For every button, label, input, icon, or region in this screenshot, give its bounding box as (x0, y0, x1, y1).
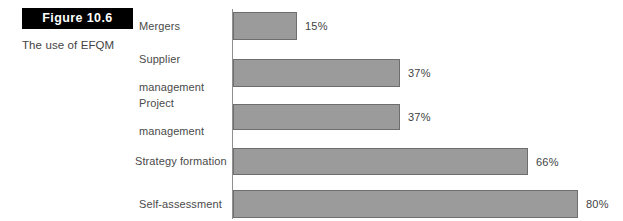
bar-self-assessment[interactable] (233, 190, 578, 218)
bar-category-label-line1: Strategy formation (135, 154, 227, 168)
bar-category-label-line1: Project (139, 96, 204, 110)
bar-category-label: Supplier management (139, 59, 231, 87)
bar-value-label: 80% (586, 198, 609, 210)
bar-value-label: 37% (408, 67, 431, 79)
bar-category-label: Strategy formation (135, 148, 235, 175)
bar-category-label-line1: Supplier (139, 52, 204, 66)
bar-category-label: Self-assessment (139, 190, 239, 218)
bar-category-label-line2: management (139, 80, 204, 94)
bar-category-label-line2: management (139, 124, 204, 138)
bar-mergers[interactable] (233, 12, 297, 40)
bar-value-label: 15% (305, 20, 328, 32)
bar-category-label: Project management (139, 104, 231, 130)
bar-strategy-formation[interactable] (233, 148, 528, 175)
bar-project-management[interactable] (233, 104, 400, 130)
bar-category-label-line1: Self-assessment (139, 197, 222, 211)
bar-category-label: Mergers (139, 12, 231, 40)
bar-value-label: 37% (408, 111, 431, 123)
bar-value-label: 66% (536, 156, 559, 168)
bar-chart: Mergers 15% Supplier management 37% Proj… (0, 0, 623, 221)
bar-category-label-line1: Mergers (139, 19, 180, 33)
bar-supplier-management[interactable] (233, 59, 400, 87)
